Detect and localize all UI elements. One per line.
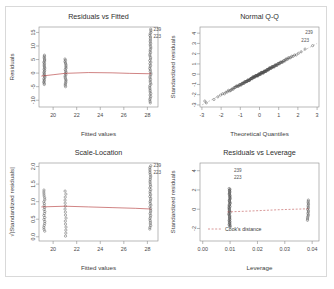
x-axis-label: Leverage [247, 264, 273, 271]
y-tick-label: 4 [191, 169, 197, 172]
x-tick-label: 0.04 [307, 246, 318, 252]
panel-residuals-vs-leverage: Residuals vs Leverage0.000.010.020.030.0… [167, 143, 328, 277]
y-tick-label: 2 [191, 52, 197, 55]
x-tick-label: -2 [219, 112, 224, 118]
panel-residuals-vs-fitted: Residuals vs Fitted2022242628-10-5051015… [6, 7, 167, 143]
y-tick-label: 3 [191, 42, 197, 45]
y-tick-label: 1.5 [30, 180, 36, 188]
x-axis-label: Theoretical Quantiles [230, 130, 288, 137]
x-tick-label: 26 [121, 246, 127, 252]
x-tick-label: 22 [74, 112, 80, 118]
y-tick-label: 1.0 [30, 198, 36, 206]
chart-residuals-vs-leverage: Residuals vs Leverage0.000.010.020.030.0… [167, 143, 328, 277]
x-tick-label: 0 [258, 112, 261, 118]
x-tick-label: 24 [97, 112, 103, 118]
y-tick-label: 5 [30, 58, 36, 61]
plot-box [39, 27, 158, 107]
y-tick-label: 0 [191, 208, 197, 211]
y-tick-label: 15 [30, 29, 36, 35]
y-tick-label: 2.0 [30, 163, 36, 171]
x-tick-label: -1 [238, 112, 243, 118]
point-label: 223 [301, 38, 309, 43]
point-label: 223 [234, 175, 242, 180]
chart-title: Scale-Location [75, 148, 123, 157]
x-tick-label: 26 [121, 112, 127, 118]
x-tick-label: 24 [97, 246, 103, 252]
y-tick-label: 10 [30, 43, 36, 49]
point-label: 239 [153, 27, 161, 32]
x-tick-label: 0.00 [197, 246, 208, 252]
x-tick-label: 1 [277, 112, 280, 118]
data-points [43, 165, 152, 238]
y-tick-label: -3 [191, 103, 197, 108]
y-axis-label: Standardized residuals [169, 36, 176, 99]
panel-normal-qq: Normal Q-Q-3-2-10123-3-2-101234Theoretic… [167, 7, 328, 143]
y-axis-label: Residuals [8, 53, 15, 80]
y-tick-label: 1 [191, 62, 197, 65]
point-label: 239 [305, 30, 313, 35]
y-tick-label: 4 [191, 32, 197, 35]
y-tick-label: -2 [191, 92, 197, 97]
x-tick-label: 2 [296, 112, 299, 118]
smoother-line [41, 206, 151, 209]
chart-residuals-vs-fitted: Residuals vs Fitted2022242628-10-5051015… [6, 7, 167, 143]
chart-scale-location: Scale-Location20222426280.00.51.01.52.0F… [6, 143, 167, 277]
point-label: 223 [153, 170, 161, 175]
point-label: 239 [234, 168, 242, 173]
x-tick-label: 28 [144, 112, 150, 118]
y-tick-label: 0 [191, 73, 197, 76]
chart-title: Normal Q-Q [240, 12, 279, 21]
x-tick-label: 3 [316, 112, 319, 118]
panel-scale-location: Scale-Location20222426280.00.51.01.52.0F… [6, 143, 167, 277]
x-axis-label: Fitted values [81, 130, 116, 137]
y-tick-label: 0.5 [30, 215, 36, 223]
chart-title: Residuals vs Fitted [68, 12, 129, 21]
x-tick-label: 20 [50, 112, 56, 118]
data-points [228, 187, 310, 228]
y-tick-label: 0.0 [30, 233, 36, 241]
y-tick-label: -1 [191, 82, 197, 87]
x-tick-label: -3 [200, 112, 205, 118]
legend-label-cooks-distance: Cook's distance [225, 226, 262, 232]
y-axis-label: √|Standardized residuals| [8, 167, 15, 237]
y-tick-label: -5 [30, 84, 36, 89]
figure-frame: Residuals vs Fitted2022242628-10-5051015… [5, 6, 327, 277]
x-axis-label: Fitted values [81, 264, 116, 271]
data-points [43, 28, 152, 104]
chart-normal-qq: Normal Q-Q-3-2-10123-3-2-101234Theoretic… [167, 7, 328, 143]
plot-box [39, 163, 158, 241]
x-tick-label: 0.01 [225, 246, 236, 252]
x-tick-label: 22 [74, 246, 80, 252]
x-tick-label: 20 [50, 246, 56, 252]
x-tick-label: 0.02 [252, 246, 263, 252]
smoother-line [227, 209, 309, 212]
smoother-line [41, 73, 151, 77]
y-tick-label: -10 [30, 96, 36, 104]
point-label: 223 [153, 34, 161, 39]
x-tick-label: 0.03 [280, 246, 291, 252]
y-tick-label: 0 [30, 72, 36, 75]
y-axis-label: Standardized residuals [169, 171, 176, 234]
data-points [204, 45, 314, 104]
chart-title: Residuals vs Leverage [223, 148, 296, 157]
y-tick-label: -2 [191, 226, 197, 231]
y-tick-label: 2 [191, 188, 197, 191]
point-label: 239 [153, 163, 161, 168]
x-tick-label: 28 [144, 246, 150, 252]
